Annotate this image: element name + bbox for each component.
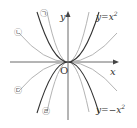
x-axis-label: x [110,66,116,77]
origin-label: O [60,65,68,76]
y-axis-label: y [59,11,66,22]
parabola-diagram: y x O y=x2 y=−x2 ㉠ ㉡ ㉢ ㉣ [0,0,137,128]
y-axis-arrow-icon [66,11,71,17]
label-rieul: ㉣ [42,107,50,116]
label-giyeok: ㉠ [40,9,48,18]
x-axis-arrow-icon [113,60,119,65]
label-digeut: ㉢ [14,86,22,95]
label-y-eq-neg-x2: y=−x2 [95,103,125,115]
label-y-eq-x2: y=x2 [95,10,118,22]
label-nieun: ㉡ [14,28,22,37]
